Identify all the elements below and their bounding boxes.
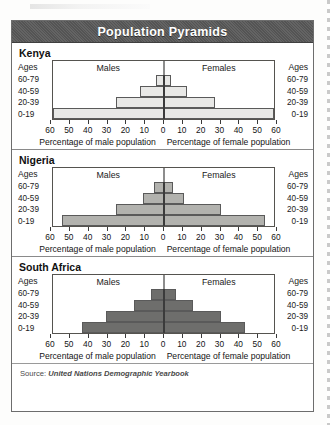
age-label-0-19: 0-19 bbox=[18, 218, 52, 226]
tick-label: 20 bbox=[196, 339, 205, 349]
age-label-60-79: 60-79 bbox=[18, 290, 52, 298]
x-axis-tick-labels: 6050403020100102030405060 bbox=[50, 339, 276, 350]
bar-female-0-19 bbox=[164, 215, 265, 226]
tick-mark bbox=[50, 120, 51, 124]
age-axis-right: Ages60-7940-5920-390-19 bbox=[275, 274, 308, 334]
tick-label: 30 bbox=[102, 339, 111, 349]
age-label-60-79: 60-79 bbox=[275, 183, 308, 191]
xlabel-female: Percentage of female population bbox=[163, 351, 294, 361]
chart-title-kenya: Kenya bbox=[19, 47, 308, 59]
bar-female-0-19 bbox=[164, 322, 245, 333]
tick-label: 20 bbox=[121, 339, 130, 349]
tick-mark bbox=[220, 334, 221, 338]
age-label-20-39: 20-39 bbox=[18, 99, 52, 107]
tick-label: 60 bbox=[271, 232, 280, 242]
plot-area-kenya: MalesFemales bbox=[52, 60, 275, 120]
age-label-20-39: 20-39 bbox=[275, 99, 308, 107]
tick-mark bbox=[88, 227, 89, 231]
tick-label: 60 bbox=[45, 125, 54, 135]
tick-label: 50 bbox=[252, 339, 261, 349]
page-title: Population Pyramids bbox=[97, 25, 227, 39]
age-label-40-59: 40-59 bbox=[275, 302, 308, 310]
chart-body: Ages60-7940-5920-390-19MalesFemalesAges6… bbox=[18, 274, 308, 334]
tick-mark bbox=[125, 120, 126, 124]
tick-mark bbox=[220, 120, 221, 124]
bar-male-0-19 bbox=[62, 215, 163, 226]
bar-male-20-39 bbox=[116, 97, 164, 108]
bar-female-60-79 bbox=[164, 182, 173, 193]
bar-female-40-59 bbox=[164, 86, 188, 97]
plot-area-nigeria: MalesFemales bbox=[52, 167, 275, 227]
age-axis-header: Ages bbox=[18, 169, 52, 179]
tick-label: 50 bbox=[252, 125, 261, 135]
tick-mark bbox=[107, 334, 108, 338]
tick-label: 50 bbox=[64, 125, 73, 135]
tick-mark bbox=[163, 334, 164, 338]
page-root: Population Pyramids KenyaAges60-7940-592… bbox=[0, 0, 330, 425]
tick-mark bbox=[125, 334, 126, 338]
males-label: Males bbox=[53, 170, 164, 180]
age-axis-header: Ages bbox=[275, 169, 308, 179]
xlabel-male: Percentage of male population bbox=[32, 244, 163, 254]
tick-mark bbox=[107, 120, 108, 124]
tick-label: 40 bbox=[83, 339, 92, 349]
tick-mark bbox=[276, 334, 277, 338]
bar-male-40-59 bbox=[143, 193, 163, 204]
x-axis-captions: Percentage of male populationPercentage … bbox=[32, 351, 294, 361]
tick-label: 30 bbox=[215, 232, 224, 242]
tick-label: 0 bbox=[161, 339, 166, 349]
x-axis-captions: Percentage of male populationPercentage … bbox=[32, 244, 294, 254]
bar-male-40-59 bbox=[140, 86, 164, 97]
tick-mark bbox=[238, 227, 239, 231]
age-label-40-59: 40-59 bbox=[18, 88, 52, 96]
tick-mark bbox=[201, 334, 202, 338]
age-label-60-79: 60-79 bbox=[275, 290, 308, 298]
xlabel-male: Percentage of male population bbox=[32, 137, 163, 147]
bar-male-0-19 bbox=[82, 322, 163, 333]
bar-female-40-59 bbox=[164, 193, 184, 204]
tick-label: 10 bbox=[139, 125, 148, 135]
age-axis-right: Ages60-7940-5920-390-19 bbox=[275, 60, 308, 120]
tick-mark bbox=[276, 120, 277, 124]
tick-label: 20 bbox=[196, 125, 205, 135]
tick-label: 10 bbox=[177, 232, 186, 242]
tick-label: 50 bbox=[64, 339, 73, 349]
tick-label: 10 bbox=[139, 339, 148, 349]
age-label-0-19: 0-19 bbox=[275, 325, 308, 333]
bar-female-60-79 bbox=[164, 75, 171, 86]
age-label-20-39: 20-39 bbox=[18, 206, 52, 214]
tick-label: 20 bbox=[121, 125, 130, 135]
source-prefix: Source: bbox=[20, 369, 46, 378]
tick-label: 10 bbox=[139, 232, 148, 242]
bar-female-60-79 bbox=[164, 289, 177, 300]
chart-panel-south-africa: South AfricaAges60-7940-5920-390-19Males… bbox=[12, 257, 313, 363]
age-axis-header: Ages bbox=[18, 276, 52, 286]
tick-label: 20 bbox=[121, 232, 130, 242]
bar-male-60-79 bbox=[151, 289, 164, 300]
bar-female-40-59 bbox=[164, 300, 193, 311]
age-axis-left: Ages60-7940-5920-390-19 bbox=[18, 60, 52, 120]
bar-female-20-39 bbox=[164, 97, 216, 108]
age-label-20-39: 20-39 bbox=[275, 206, 308, 214]
tick-mark bbox=[69, 334, 70, 338]
figure-frame: Population Pyramids KenyaAges60-7940-592… bbox=[11, 20, 314, 412]
tick-mark bbox=[125, 227, 126, 231]
tick-label: 40 bbox=[83, 232, 92, 242]
tick-mark bbox=[144, 227, 145, 231]
age-label-0-19: 0-19 bbox=[275, 218, 308, 226]
xlabel-female: Percentage of female population bbox=[163, 244, 294, 254]
males-label: Males bbox=[53, 63, 164, 73]
bar-female-20-39 bbox=[164, 204, 221, 215]
females-label: Females bbox=[164, 277, 275, 287]
xlabel-female: Percentage of female population bbox=[163, 137, 294, 147]
tick-mark bbox=[257, 334, 258, 338]
age-label-20-39: 20-39 bbox=[18, 313, 52, 321]
tick-mark bbox=[144, 334, 145, 338]
source-name: United Nations Demographic Yearbook bbox=[48, 369, 189, 378]
age-label-0-19: 0-19 bbox=[275, 111, 308, 119]
tick-mark bbox=[201, 227, 202, 231]
males-label: Males bbox=[53, 277, 164, 287]
figure-title-bar: Population Pyramids bbox=[12, 21, 313, 43]
bar-male-20-39 bbox=[106, 311, 163, 322]
age-axis-left: Ages60-7940-5920-390-19 bbox=[18, 167, 52, 227]
